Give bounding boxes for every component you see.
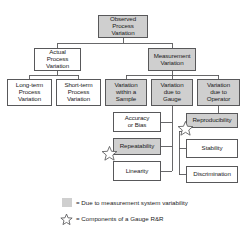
shaded-swatch-icon — [62, 198, 72, 207]
node-label: Discrimination — [192, 171, 231, 178]
node-label: Variation within a Sample — [113, 82, 138, 103]
node-repeatability: Repeatability — [113, 138, 161, 155]
node-variation-within-a-sample: Variation within a Sample — [105, 79, 147, 106]
star-icon-legend — [60, 212, 73, 225]
node-label: Measurement Variation — [153, 53, 192, 67]
node-label: Long-term Process Variation — [15, 82, 44, 103]
node-short-term-process-variation: Short-term Process Variation — [56, 79, 101, 106]
node-label: Observed Process Variation — [109, 16, 137, 37]
node-label: Accuracy or Bias — [124, 115, 151, 129]
node-label: Linearity — [125, 168, 150, 175]
diagram-root: Observed Process Variation Actual Proces… — [0, 0, 245, 230]
node-variation-due-to-operator: Variation due to Operator — [197, 79, 240, 106]
node-label: Actual Process Variation — [45, 49, 70, 70]
node-label: Variation due to Gauge — [159, 82, 184, 103]
legend-item-star: = Components of a Gauge R&R — [60, 212, 164, 225]
node-discrimination: Discrimination — [186, 166, 238, 183]
node-accuracy-or-bias: Accuracy or Bias — [113, 112, 161, 132]
node-long-term-process-variation: Long-term Process Variation — [7, 79, 52, 106]
node-variation-due-to-gauge: Variation due to Gauge — [151, 79, 193, 106]
node-observed-process-variation: Observed Process Variation — [98, 15, 148, 38]
node-label: Variation due to Operator — [206, 82, 232, 103]
node-label: Reproducibility — [191, 117, 232, 124]
diagram-caption-strip — [0, 0, 245, 9]
legend-label: = Due to measurement system variability — [76, 199, 188, 206]
node-label: Stability — [201, 145, 224, 152]
legend-item-shaded: = Due to measurement system variability — [62, 198, 188, 207]
node-measurement-variation: Measurement Variation — [148, 48, 196, 71]
node-actual-process-variation: Actual Process Variation — [34, 48, 81, 71]
node-linearity: Linearity — [113, 161, 161, 181]
legend-label: = Components of a Gauge R&R — [76, 215, 164, 222]
node-stability: Stability — [186, 139, 238, 158]
node-reproducibility: Reproducibility — [186, 113, 238, 128]
node-label: Short-term Process Variation — [63, 82, 93, 103]
node-label: Repeatability — [119, 143, 155, 150]
